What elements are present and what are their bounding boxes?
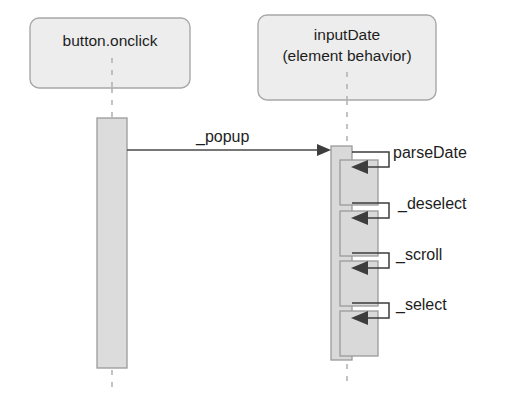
activation-bar-button-onclick[interactable] <box>97 118 127 368</box>
lifeline-label-input-date-line2: (element behavior) <box>282 47 411 64</box>
self-message-label-select: _select <box>395 296 447 314</box>
sequence-diagram-svg: button.onclick inputDate (element behavi… <box>0 0 517 397</box>
lifeline-label-button-onclick: button.onclick <box>63 32 158 49</box>
lifeline-button-onclick[interactable]: button.onclick <box>30 18 190 390</box>
lifeline-header-box-button-onclick[interactable] <box>30 18 190 88</box>
self-message-label-parse-date: parseDate <box>393 144 467 161</box>
message-popup[interactable]: _popup <box>127 128 331 156</box>
sequence-diagram-canvas: button.onclick inputDate (element behavi… <box>0 0 517 397</box>
lifeline-label-input-date-line1: inputDate <box>314 26 380 43</box>
message-label-popup: _popup <box>195 128 249 146</box>
message-arrowhead-popup <box>317 144 331 156</box>
self-message-label-deselect: _deselect <box>397 195 467 213</box>
self-message-label-scroll: _scroll <box>395 246 442 264</box>
